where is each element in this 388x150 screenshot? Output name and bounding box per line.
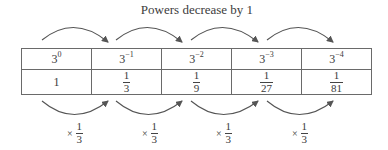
exponent-cell: 3−1 (92, 49, 162, 70)
multiplier-label: ×13 (280, 121, 320, 145)
value-cell: 1 (22, 70, 92, 95)
top-arrow-icon (191, 27, 258, 42)
value-cell: 127 (232, 70, 302, 95)
exponent-cell: 30 (22, 49, 92, 70)
exponent-cell: 3−4 (302, 49, 372, 70)
exponent-row: 30 3−1 3−2 3−3 3−4 (22, 49, 372, 70)
value-cell: 13 (92, 70, 162, 95)
multiplier-label: ×13 (55, 121, 95, 145)
fraction: 13 (123, 70, 131, 94)
top-arrow-icon (42, 27, 108, 42)
top-arrow-icon (267, 27, 333, 42)
bottom-arrow-icon (42, 101, 108, 115)
bottom-arrow-icon (191, 101, 258, 115)
top-arrow-icon (116, 27, 182, 42)
multiplier-label: ×13 (204, 121, 244, 145)
exponent-cell: 3−2 (162, 49, 232, 70)
fraction: 181 (330, 70, 343, 94)
exponent-cell: 3−3 (232, 49, 302, 70)
bottom-arrow-icon (116, 101, 182, 115)
fraction: 127 (260, 70, 273, 94)
value-row: 1 13 19 127 181 (22, 70, 372, 95)
value-cell: 181 (302, 70, 372, 95)
fraction: 19 (193, 70, 201, 94)
powers-table: 30 3−1 3−2 3−3 3−4 1 13 19 127 181 (21, 48, 372, 95)
multiplier-label: ×13 (130, 121, 170, 145)
value-cell: 19 (162, 70, 232, 95)
bottom-arrow-icon (267, 101, 333, 115)
